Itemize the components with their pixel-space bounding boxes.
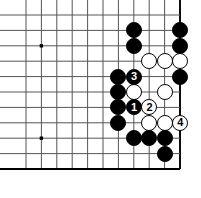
stone-white [157,53,173,69]
stone-black [157,146,173,162]
go-board-diagram: 3124 [0,0,201,198]
stone-black [110,115,126,131]
stone-white [157,115,173,131]
stone-black [172,69,188,85]
stone-layer: 3124 [0,0,201,198]
stone-move-2: 2 [141,99,157,115]
stone-white [126,84,142,100]
stone-move-3: 3 [126,69,142,85]
stone-black [172,38,188,54]
stone-black [141,130,157,146]
stone-black [126,22,142,38]
stone-move-number: 1 [131,102,137,113]
stone-move-number: 2 [146,102,152,113]
stone-white [172,53,188,69]
stone-move-4: 4 [172,115,188,131]
stone-black [157,130,173,146]
stone-white [141,53,157,69]
stone-white [141,115,157,131]
stone-black [110,84,126,100]
stone-white [157,84,173,100]
stone-move-number: 4 [177,117,183,128]
stone-black [126,38,142,54]
stone-black [126,130,142,146]
stone-black [110,69,126,85]
stone-move-number: 3 [131,71,137,82]
stone-move-1: 1 [126,99,142,115]
stone-black [110,99,126,115]
stone-black [172,22,188,38]
